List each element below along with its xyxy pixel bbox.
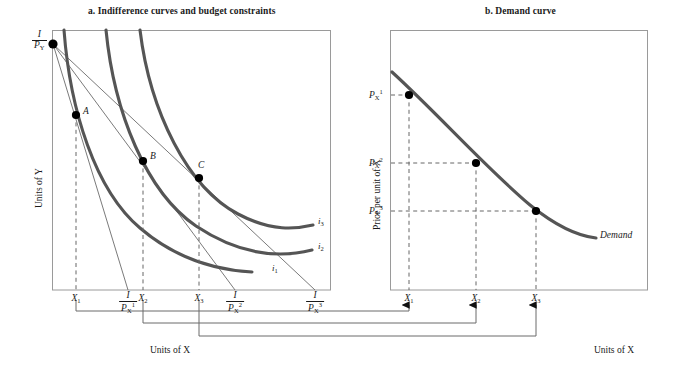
panel-a-budget-intercept-3: I PX3 bbox=[306, 292, 324, 316]
panel-a-y-axis-label: Units of Y bbox=[34, 168, 44, 208]
panel-b-demand-curve bbox=[392, 72, 596, 238]
panel-b-frame bbox=[391, 31, 648, 291]
connector-x3 bbox=[199, 300, 536, 336]
point-c-label: C bbox=[198, 160, 204, 170]
curve-label-i2: i2 bbox=[318, 241, 324, 252]
panel-b-ytick-p1: PX1 bbox=[369, 88, 383, 101]
figure-canvas bbox=[0, 0, 677, 373]
point-income-intercept bbox=[48, 39, 57, 48]
panel-b-xtick-x2: X2 bbox=[471, 293, 480, 304]
panel-a-indifference-curves bbox=[64, 30, 313, 272]
curve-label-i3: i3 bbox=[318, 216, 324, 227]
point-b-label: B bbox=[150, 151, 156, 161]
panel-b-ytick-p3: PX3 bbox=[369, 204, 383, 217]
panel-a-income-intercept-label: I PY bbox=[32, 31, 47, 52]
panel-b-y-axis-label: Price per unit of X bbox=[372, 159, 382, 230]
panel-a-budget-intercept-2: I PX2 bbox=[226, 292, 244, 316]
demand-point-3 bbox=[532, 207, 540, 215]
budget-line-1 bbox=[53, 44, 128, 290]
panel-a-points bbox=[48, 39, 203, 182]
point-c bbox=[195, 174, 203, 182]
panel-b-xtick-x3: X3 bbox=[531, 293, 540, 304]
demand-point-1 bbox=[405, 91, 413, 99]
curve-label-i1: i1 bbox=[272, 263, 278, 274]
panel-b-xtick-x1: X1 bbox=[404, 293, 413, 304]
panel-b-ytick-p2: PX2 bbox=[369, 156, 383, 169]
demand-point-2 bbox=[472, 159, 480, 167]
panel-a-x-axis-label: Units of X bbox=[150, 345, 190, 355]
demand-curve-path bbox=[392, 72, 596, 238]
point-b bbox=[139, 157, 147, 165]
demand-curve-label: Demand bbox=[600, 230, 632, 240]
point-a bbox=[72, 111, 80, 119]
point-a-label: A bbox=[83, 106, 89, 116]
figure-root: a. Indifference curves and budget constr… bbox=[0, 0, 677, 373]
panel-a-xtick-x2: X2 bbox=[138, 293, 147, 304]
panel-a-xtick-x3: X3 bbox=[194, 293, 203, 304]
indifference-curve-i1 bbox=[64, 30, 252, 272]
panel-a-drop-lines bbox=[76, 115, 199, 290]
income-intercept-numerator: I bbox=[32, 30, 47, 40]
panel-b-x-axis-label: Units of X bbox=[594, 345, 634, 355]
income-intercept-denominator-sub: Y bbox=[40, 44, 45, 51]
panel-a-xtick-x1: X1 bbox=[71, 293, 80, 304]
indifference-curve-i2 bbox=[106, 30, 312, 254]
panel-a-budget-intercept-1: I PX1 bbox=[119, 292, 137, 316]
